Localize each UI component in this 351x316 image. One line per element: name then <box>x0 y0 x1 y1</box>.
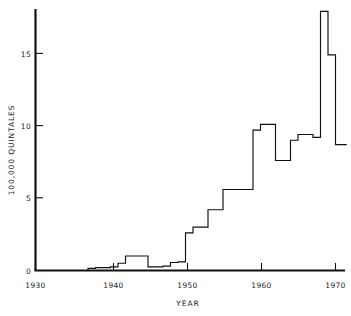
y-tick-label-10: 10 <box>21 122 31 131</box>
x-tick-label-1950: 1950 <box>177 281 197 290</box>
data-series-line <box>36 11 347 270</box>
chart-figure: 15 10 5 0 1930 1940 1950 1960 1970 YEAR … <box>0 0 351 316</box>
chart-plot-area: 15 10 5 0 1930 1940 1950 1960 1970 YEAR … <box>0 0 351 316</box>
y-tick-label-15: 15 <box>21 50 31 59</box>
x-tick-label-1930: 1930 <box>25 281 45 290</box>
x-axis-title: YEAR <box>175 299 199 308</box>
x-tick-marks <box>36 263 336 270</box>
y-tick-label-5: 5 <box>26 194 31 203</box>
y-tick-marks <box>36 53 43 197</box>
x-tick-label-1940: 1940 <box>103 281 123 290</box>
x-tick-label-1970: 1970 <box>325 281 345 290</box>
y-tick-label-0: 0 <box>26 267 31 276</box>
y-axis-title: 100,000 QUINTALES <box>7 105 16 196</box>
x-tick-label-1960: 1960 <box>251 281 271 290</box>
